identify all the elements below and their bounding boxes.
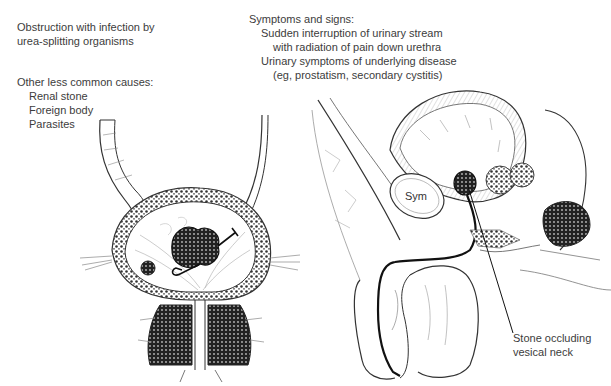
callout-line-1: Stone occluding (513, 331, 591, 345)
stone-callout-label: Stone occluding vesical neck (513, 331, 591, 359)
callout-line-2: vesical neck (513, 345, 591, 359)
anatomy-illustration (0, 0, 611, 386)
symphysis-label: Sym (405, 190, 427, 202)
bladder-frontal-section (80, 115, 300, 382)
